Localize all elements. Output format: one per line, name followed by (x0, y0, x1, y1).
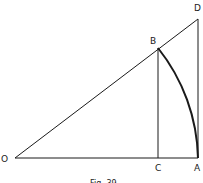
label-O: O (1, 154, 8, 164)
segment-OD (15, 19, 198, 158)
label-D: D (194, 3, 201, 13)
arc-BA (158, 48, 198, 158)
figure-caption: Fig. 39 (90, 179, 117, 183)
label-B: B (150, 36, 156, 46)
label-C: C (155, 163, 161, 173)
geometry-figure: D B O C A Fig. 39 (0, 0, 203, 183)
label-A: A (194, 163, 201, 173)
